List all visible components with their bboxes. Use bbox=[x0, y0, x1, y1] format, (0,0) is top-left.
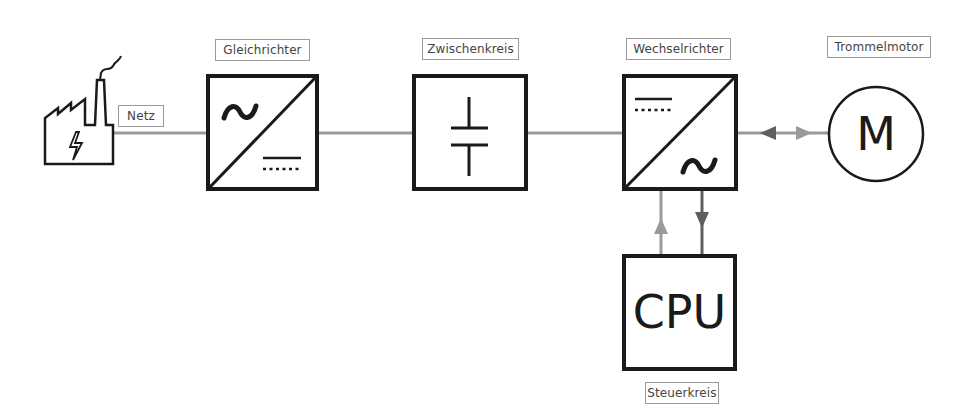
label-wechselrichter: Wechselrichter bbox=[626, 38, 731, 60]
motor-text: M bbox=[829, 104, 923, 164]
label-zwischenkreis: Zwischenkreis bbox=[422, 38, 519, 60]
arrow-up-icon bbox=[654, 218, 668, 234]
gleichrichter-block bbox=[208, 76, 317, 189]
zwischenkreis-block bbox=[414, 76, 526, 189]
factory-lightning-icon bbox=[45, 56, 121, 164]
wechselrichter-block bbox=[624, 76, 736, 189]
label-gleichrichter: Gleichrichter bbox=[215, 39, 310, 61]
block-diagram: CPU M Netz Gleichrichter Zwischenkreis W… bbox=[0, 0, 974, 419]
label-steuerkreis: Steuerkreis bbox=[645, 382, 719, 404]
arrow-down-icon bbox=[695, 212, 709, 228]
label-netz: Netz bbox=[118, 105, 164, 127]
cpu-text: CPU bbox=[624, 282, 735, 342]
arrow-left-icon bbox=[760, 126, 776, 140]
label-trommelmotor: Trommelmotor bbox=[827, 36, 931, 58]
arrow-right-icon bbox=[796, 126, 812, 140]
